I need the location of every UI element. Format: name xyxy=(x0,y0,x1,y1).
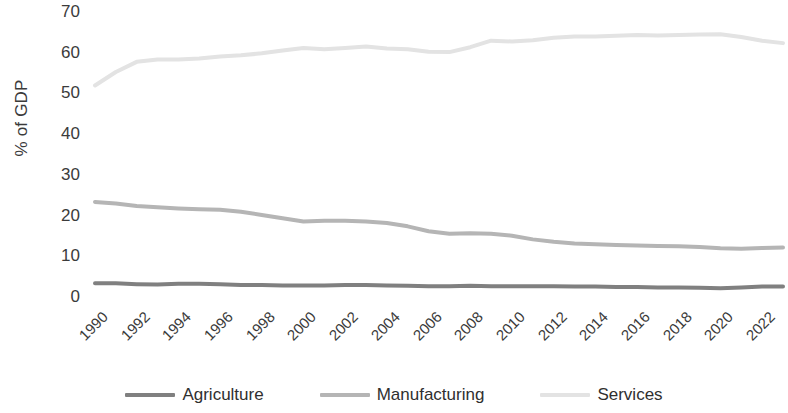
plot-area xyxy=(0,0,788,413)
legend-label: Manufacturing xyxy=(377,385,485,405)
chart-legend: AgricultureManufacturingServices xyxy=(0,378,788,412)
legend-line-icon xyxy=(540,393,590,397)
legend-line-icon xyxy=(125,393,175,397)
legend-line-icon xyxy=(320,393,370,397)
legend-item-agriculture[interactable]: Agriculture xyxy=(125,385,263,405)
legend-label: Services xyxy=(597,385,662,405)
series-line-agriculture xyxy=(95,283,783,288)
legend-label: Agriculture xyxy=(182,385,263,405)
legend-item-manufacturing[interactable]: Manufacturing xyxy=(320,385,485,405)
series-line-manufacturing xyxy=(95,202,783,249)
legend-item-services[interactable]: Services xyxy=(540,385,662,405)
line-chart: % of GDP 706050403020100 199019921994199… xyxy=(0,0,788,413)
series-line-services xyxy=(95,34,783,85)
